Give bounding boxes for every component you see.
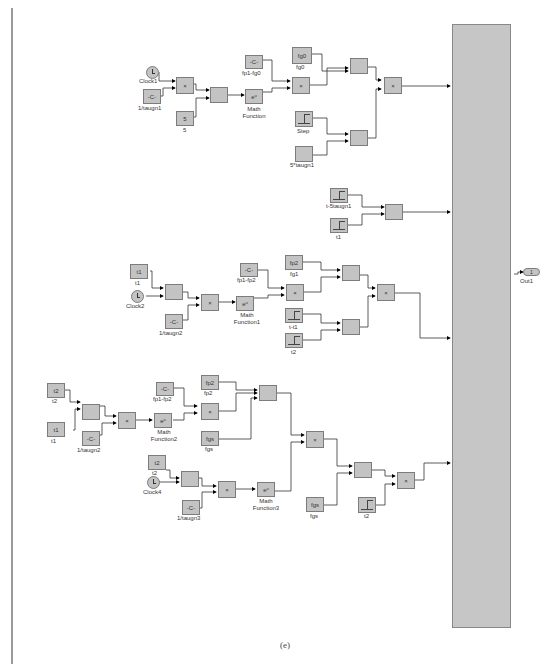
constant-glyph: -C-: [187, 505, 195, 511]
constant-1-taugn1-block[interactable]: -C-: [143, 89, 161, 104]
constant-fp1-fp2-block[interactable]: -C-: [156, 382, 174, 396]
product-glyph: ×: [391, 83, 395, 89]
constant-t1-block[interactable]: t1: [47, 422, 65, 437]
constant-5taugn1-block[interactable]: [295, 146, 313, 162]
sum-block[interactable]: [354, 462, 372, 478]
outport-label: Out1: [520, 278, 533, 285]
product-block[interactable]: ×: [176, 77, 194, 94]
sum-block[interactable]: [82, 404, 100, 420]
constant-fgs-label: fgs: [205, 446, 213, 453]
outport-out1[interactable]: 1: [523, 268, 540, 276]
product-glyph: ×: [293, 290, 297, 296]
step-t1-label: t1: [336, 234, 341, 241]
step-t1-block[interactable]: [330, 218, 348, 233]
product-glyph: ×: [225, 487, 229, 493]
step-t2-label: t2: [364, 513, 369, 520]
constant-glyph: -C-: [161, 386, 169, 392]
constant-1-taugn2-label: 1/taugn2: [159, 330, 182, 337]
constant-glyph: -C-: [148, 94, 156, 100]
math-function-block[interactable]: eᵘ: [245, 89, 263, 104]
product-glyph: ×: [208, 300, 212, 306]
constant-glyph: 5: [183, 116, 186, 122]
clock4-block[interactable]: [147, 476, 160, 489]
math-function1-block[interactable]: eᵘ: [236, 296, 254, 311]
sum-block[interactable]: [342, 265, 360, 281]
constant-t2-block[interactable]: t2: [47, 383, 65, 398]
clock2-block[interactable]: [131, 290, 144, 303]
math-function3-block[interactable]: eᵘ: [257, 482, 275, 497]
constant-fp1-fp2-label: fp1-fp2: [153, 396, 172, 403]
constant-fp1-fg0-label: fp1-fg0: [242, 70, 261, 77]
constant-1-taugn2-block[interactable]: -C-: [82, 431, 100, 446]
clock1-label: Clock1: [139, 78, 157, 85]
step-t-t1-label: t-t1: [289, 324, 298, 331]
product-block[interactable]: ×: [286, 284, 304, 301]
constant-glyph: fgs: [311, 502, 319, 508]
constant-glyph: t2: [154, 460, 159, 466]
constant-t1-block[interactable]: t1: [130, 264, 148, 279]
exp-glyph: eᵘ: [251, 94, 257, 100]
sum-3-input-block[interactable]: [259, 385, 277, 401]
constant-1-taugn2-label: 1/taugn2: [77, 447, 100, 454]
constant-5taugn1-label: 5*taugn1: [290, 162, 314, 169]
product-block[interactable]: ×: [397, 472, 415, 489]
step-t2-block[interactable]: [358, 497, 376, 513]
constant-1-taugn3-label: 1/taugn3: [177, 515, 200, 522]
step-t-t1-block[interactable]: [285, 308, 303, 323]
constant-fp1-fg0-block[interactable]: -C-: [245, 55, 263, 69]
constant-glyph: t2: [53, 388, 58, 394]
constant-fgs-block[interactable]: fgs: [201, 431, 219, 446]
constant-fp2-label: fp2: [204, 390, 212, 397]
product-block[interactable]: ×: [201, 294, 219, 311]
product-block[interactable]: ×: [377, 284, 395, 301]
sum-block[interactable]: [210, 87, 228, 103]
sum-block[interactable]: [181, 471, 199, 487]
constant-fp1-fp2-label: fp1-fp2: [237, 277, 256, 284]
constant-glyph: fp2: [206, 380, 214, 386]
sum-block[interactable]: [385, 204, 403, 220]
sum-block[interactable]: [342, 319, 360, 335]
step-t2-label: t2: [291, 349, 296, 356]
step-icon: [288, 311, 300, 320]
constant-1-taugn2-block[interactable]: -C-: [165, 314, 183, 329]
product-block[interactable]: ×: [201, 403, 219, 420]
product-block[interactable]: ×: [118, 412, 136, 429]
constant-fgs-block[interactable]: fgs: [306, 497, 324, 512]
constant-fg0-block[interactable]: fg0: [292, 47, 312, 64]
constant-t2-label: t2: [52, 398, 57, 405]
constant-fp1-fp2-block[interactable]: -C-: [240, 263, 258, 277]
math-function2-label: Math Function2: [150, 429, 178, 443]
constant-glyph: -C-: [245, 267, 253, 273]
bus-creator-block[interactable]: [452, 24, 511, 628]
step-icon: [333, 221, 345, 230]
math-function1-label: Math Function1: [233, 312, 261, 326]
constant-t1-label: t1: [135, 280, 140, 287]
product-block[interactable]: ×: [306, 431, 324, 448]
constant-glyph: fg0: [298, 53, 306, 59]
step-block[interactable]: [295, 111, 313, 127]
constant-fp2-block[interactable]: fp2: [201, 375, 219, 390]
constant-t2-block[interactable]: t2: [148, 455, 166, 470]
constant-1-taugn1-label: 1/taugn1: [138, 105, 161, 112]
constant-5-block[interactable]: 5: [176, 111, 194, 126]
constant-glyph: fgs: [206, 436, 214, 442]
sum-block[interactable]: [165, 284, 183, 300]
product-block[interactable]: ×: [384, 77, 402, 94]
product-block[interactable]: ×: [292, 77, 310, 94]
math-function2-block[interactable]: eᵘ: [154, 413, 172, 428]
step-t-5taugn1-block[interactable]: [330, 188, 348, 203]
constant-fgs-label: fgs: [310, 513, 318, 520]
constant-1-taugn3-block[interactable]: -C-: [182, 500, 200, 515]
sum-block[interactable]: [350, 130, 368, 146]
math-function-label: Math Function: [240, 106, 268, 120]
exp-glyph: eᵘ: [263, 487, 269, 493]
constant-glyph: -C-: [250, 59, 258, 65]
product-block[interactable]: ×: [218, 481, 236, 498]
clock4-label: Clock4: [143, 489, 161, 496]
constant-fp2-block[interactable]: fp2: [285, 255, 303, 270]
math-function3-label: Math Function3: [252, 498, 280, 512]
step-t2-block[interactable]: [285, 333, 303, 348]
step-label: Step: [297, 128, 309, 135]
sum-block[interactable]: [350, 58, 368, 74]
clock2-label: Clock2: [126, 303, 144, 310]
